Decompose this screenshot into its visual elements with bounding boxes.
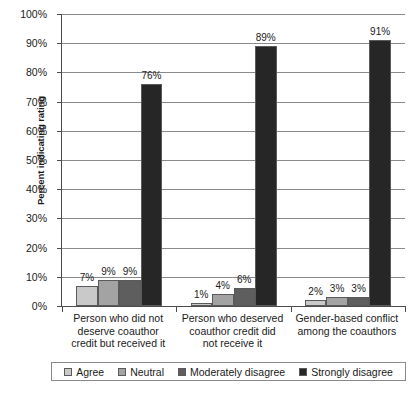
- bar-value-label: 89%: [256, 32, 276, 43]
- bar-value-label: 76%: [141, 70, 161, 81]
- x-axis-category-label: Person who deservedcoauthor credit didno…: [175, 312, 289, 350]
- y-axis-tick: [57, 189, 62, 190]
- x-axis-category-label-line: Person who did not: [61, 312, 175, 325]
- x-axis-category-label-line: Person who deserved: [175, 312, 289, 325]
- bar-value-label: 6%: [237, 274, 251, 285]
- y-axis-tick-label: 20%: [26, 242, 47, 254]
- legend-swatch-icon: [64, 368, 72, 376]
- y-axis-tick: [57, 248, 62, 249]
- gridline: [62, 14, 405, 15]
- x-axis-category-label-line: credit but received it: [61, 337, 175, 350]
- bar: [369, 40, 391, 306]
- x-axis-category-label-line: coauthor credit did: [175, 325, 289, 338]
- x-axis-category-label: Gender-based conflictamong the coauthors: [290, 312, 404, 337]
- bar: [76, 286, 98, 306]
- bar: [326, 297, 348, 306]
- bar: [212, 294, 234, 306]
- y-axis-tick: [57, 102, 62, 103]
- y-axis-tick-label: 70%: [26, 96, 47, 108]
- legend-label: Neutral: [130, 366, 164, 378]
- y-axis-tick-label: 50%: [26, 154, 47, 166]
- bar-value-label: 7%: [80, 272, 94, 283]
- y-axis-tick-label: 100%: [20, 8, 47, 20]
- plot-area: 0%10%20%30%40%50%60%70%80%90%100%7%9%9%7…: [61, 14, 405, 307]
- x-axis-category-label: Person who did notdeserve coauthorcredit…: [61, 312, 175, 350]
- gridline: [62, 131, 405, 132]
- gridline: [62, 160, 405, 161]
- x-axis-category-label-line: deserve coauthor: [61, 325, 175, 338]
- chart-legend: AgreeNeutralModerately disagreeStrongly …: [51, 362, 406, 381]
- y-axis-tick-label: 40%: [26, 183, 47, 195]
- y-axis-tick-label: 10%: [26, 271, 47, 283]
- bar-value-label: 1%: [194, 289, 208, 300]
- bar: [98, 280, 120, 306]
- legend-item[interactable]: Strongly disagree: [299, 366, 393, 378]
- bar-value-label: 3%: [351, 283, 365, 294]
- bar: [234, 288, 256, 306]
- y-axis-tick: [57, 218, 62, 219]
- bar: [119, 280, 141, 306]
- x-axis-category-tick: [405, 306, 406, 312]
- gridline: [62, 218, 405, 219]
- y-axis-tick: [57, 160, 62, 161]
- legend-label: Agree: [76, 366, 104, 378]
- bar: [348, 297, 370, 306]
- y-axis-tick-label: 0%: [32, 300, 47, 312]
- y-axis-tick-label: 60%: [26, 125, 47, 137]
- gridline: [62, 43, 405, 44]
- legend-label: Strongly disagree: [311, 366, 393, 378]
- y-axis-tick: [57, 14, 62, 15]
- y-axis-tick-label: 80%: [26, 66, 47, 78]
- gridline: [62, 72, 405, 73]
- gridline: [62, 248, 405, 249]
- x-axis-category-label-line: Gender-based conflict: [290, 312, 404, 325]
- y-axis-tick: [57, 277, 62, 278]
- bar-value-label: 9%: [101, 266, 115, 277]
- y-axis-tick-label: 90%: [26, 37, 47, 49]
- legend-item[interactable]: Moderately disagree: [178, 366, 285, 378]
- legend-label: Moderately disagree: [190, 366, 285, 378]
- legend-swatch-icon: [118, 368, 126, 376]
- legend-swatch-icon: [299, 368, 307, 376]
- bar-value-label: 91%: [370, 26, 390, 37]
- gridline: [62, 102, 405, 103]
- bar: [141, 84, 163, 306]
- bar: [255, 46, 277, 306]
- bar: [305, 300, 327, 306]
- y-axis-tick: [57, 131, 62, 132]
- legend-item[interactable]: Agree: [64, 366, 104, 378]
- bar-value-label: 4%: [216, 280, 230, 291]
- y-axis-tick-label: 30%: [26, 212, 47, 224]
- gridline: [62, 189, 405, 190]
- bar-value-label: 2%: [308, 286, 322, 297]
- y-axis-tick: [57, 72, 62, 73]
- bar-chart: Percent indicating rating 0%10%20%30%40%…: [0, 0, 420, 396]
- y-axis-tick: [57, 43, 62, 44]
- gridline: [62, 277, 405, 278]
- x-axis-category-label-line: among the coauthors: [290, 325, 404, 338]
- bar: [191, 303, 213, 306]
- legend-item[interactable]: Neutral: [118, 366, 164, 378]
- bar-value-label: 9%: [123, 266, 137, 277]
- legend-swatch-icon: [178, 368, 186, 376]
- bar-value-label: 3%: [330, 283, 344, 294]
- x-axis-category-label-line: not receive it: [175, 337, 289, 350]
